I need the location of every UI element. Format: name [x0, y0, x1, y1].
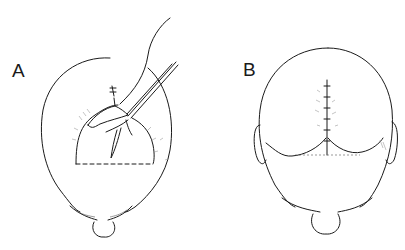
- scalp-flap-elevation-drawing: [0, 0, 200, 250]
- panel-a: A: [0, 0, 200, 250]
- panel-b: B: [200, 0, 405, 250]
- scalp-closure-drawing: [200, 0, 405, 250]
